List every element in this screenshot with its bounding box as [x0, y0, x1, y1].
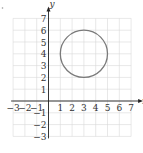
- y-tick-label: 6: [41, 26, 47, 36]
- x-tick-label: 4: [93, 103, 99, 113]
- y-tick-label: 5: [41, 38, 47, 48]
- x-tick-label: 3: [81, 103, 87, 113]
- tick-labels: −3−2−112345677654321−1−2−3: [6, 14, 134, 142]
- x-axis-label: x: [142, 96, 143, 106]
- x-tick-label: 6: [116, 103, 122, 113]
- y-axis-label: y: [49, 0, 56, 9]
- x-tick-label: 2: [69, 103, 75, 113]
- coordinate-plane: −3−2−112345677654321−1−2−3 x y: [0, 0, 143, 153]
- corner-mark: [2, 7, 4, 9]
- x-tick-label: 5: [105, 103, 111, 113]
- x-tick-label: 7: [128, 103, 134, 113]
- y-tick-label: −2: [33, 120, 46, 130]
- x-tick-label: 1: [57, 103, 63, 113]
- y-tick-label: 2: [41, 73, 47, 83]
- y-tick-label: 3: [41, 61, 47, 71]
- y-tick-label: −3: [33, 132, 47, 142]
- axes: [11, 6, 143, 138]
- y-tick-label: 1: [41, 85, 47, 95]
- y-tick-label: −1: [33, 108, 46, 118]
- y-tick-label: 4: [41, 49, 47, 59]
- y-tick-label: 7: [41, 14, 47, 24]
- grid-lines: [13, 18, 131, 136]
